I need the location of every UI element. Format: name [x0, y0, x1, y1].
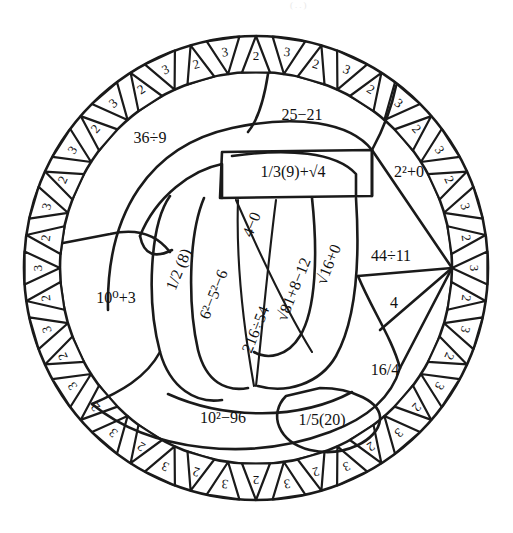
region-label-r-sqrt81p8m12: √81+8−12: [273, 255, 314, 323]
outer-triangle-ring: 2323232323232323232323232323232323232323…: [25, 36, 488, 500]
ring-triangle-number: 3: [30, 265, 45, 272]
ring-triangle[interactable]: [337, 51, 367, 90]
ring-triangle[interactable]: [298, 452, 325, 491]
ring-triangle[interactable]: [45, 172, 84, 200]
ring-triangle[interactable]: [298, 45, 325, 84]
region-label-r-4: 4: [390, 294, 398, 311]
coloring-page-canvas: (..) 23232323232323232323232323232323232…: [0, 0, 513, 533]
pi-coloring-figure: 2323232323232323232323232323232323232323…: [0, 0, 513, 533]
region-label-r-36div9: 36÷9: [134, 129, 167, 146]
region-label-r-fifth20: 1/5(20): [298, 411, 345, 429]
wedge-inner-curve: [358, 276, 400, 368]
faint-top-artifact: (..): [290, 0, 309, 10]
region-label-r-third9sqrt4: 1/3(9)+√4: [261, 163, 326, 181]
ring-triangle[interactable]: [45, 337, 84, 365]
ring-triangle[interactable]: [337, 446, 367, 485]
ring-triangle[interactable]: [145, 51, 175, 90]
ring-triangle-number: 2: [253, 473, 260, 488]
ring-triangle[interactable]: [188, 45, 215, 84]
region-label-r-10pow0p3: 10⁰+3: [96, 289, 135, 306]
pi-left-shoulder-curl: [140, 164, 222, 236]
ring-triangle[interactable]: [29, 187, 68, 219]
ring-triangle-number: 2: [253, 48, 260, 63]
ring-triangle[interactable]: [428, 172, 467, 200]
region-label-r-25minus21: 25−21: [281, 106, 322, 123]
ring-triangle[interactable]: [428, 337, 467, 365]
ring-triangle[interactable]: [188, 452, 215, 491]
ring-triangle[interactable]: [145, 446, 175, 485]
region-label-r-sqrt16p0: √16+0: [313, 242, 344, 287]
region-label-r-10sq96: 10²−96: [200, 409, 246, 426]
wedge-edge-mid: [358, 268, 452, 276]
inner-circle: [60, 72, 452, 464]
region-label-r-16over4: 16/4: [371, 361, 399, 378]
ring-triangle[interactable]: [444, 317, 483, 349]
region-label-r-44div11: 44÷11: [371, 247, 411, 264]
region-label-r-2sq0: 2²+0: [394, 163, 424, 180]
ring-triangle-number: 3: [467, 265, 482, 272]
region-label-r-6sq5sq6: 6²−5²−6: [196, 267, 231, 321]
